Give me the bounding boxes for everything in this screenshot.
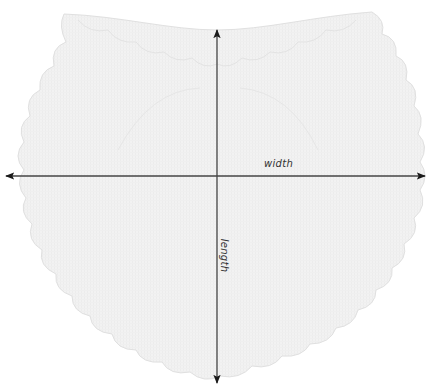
width-label: width	[264, 158, 293, 169]
length-label: length	[219, 239, 230, 273]
bib-illustration	[0, 0, 431, 391]
bib-shape	[18, 12, 425, 379]
bib-diagram: width length	[0, 0, 431, 391]
